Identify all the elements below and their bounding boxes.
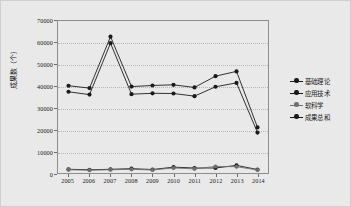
line-chart-svg (58, 21, 268, 173)
legend-label: 成果总和 (305, 113, 330, 122)
data-point (129, 167, 133, 171)
data-point (234, 69, 238, 73)
x-axis-tick-label: 2005 (61, 177, 74, 184)
plot-area (57, 20, 269, 174)
data-point (150, 83, 154, 87)
series-4 (66, 35, 259, 130)
data-point (192, 85, 196, 89)
data-point (66, 84, 70, 88)
data-point (255, 131, 259, 135)
data-point (192, 94, 196, 98)
legend-item-2[interactable]: 应用技术 (290, 87, 350, 99)
data-point (192, 167, 196, 171)
data-point (213, 85, 217, 89)
data-point (234, 81, 238, 85)
data-point (213, 74, 217, 78)
data-point (108, 168, 112, 172)
series-1 (66, 41, 259, 135)
data-point (87, 86, 91, 90)
data-point (66, 168, 70, 172)
x-axis-tick-label: 2014 (252, 177, 265, 184)
legend-item-1[interactable]: 基础理论 (290, 75, 350, 87)
legend-item-3[interactable]: 软科学 (290, 99, 350, 111)
series-2 (66, 163, 259, 171)
series-layer (58, 21, 268, 173)
x-axis-tick-labels: 2005200620072008200920102011201220132014 (57, 177, 269, 191)
data-point (87, 93, 91, 97)
series-line (69, 37, 258, 128)
x-axis-tick-label: 2011 (189, 177, 202, 184)
data-point (171, 166, 175, 170)
x-axis-tick-label: 2010 (167, 177, 180, 184)
x-axis-tick-label: 2009 (146, 177, 159, 184)
data-point (108, 35, 112, 39)
legend-marker-icon (290, 113, 303, 121)
data-point (171, 91, 175, 95)
data-point (129, 85, 133, 89)
data-point (150, 168, 154, 172)
data-point (129, 92, 133, 96)
data-point (150, 91, 154, 95)
x-axis-tick-label: 2013 (231, 177, 244, 184)
legend-label: 应用技术 (305, 89, 330, 98)
x-axis-tick-label: 2007 (104, 177, 117, 184)
x-axis-tick-label: 2006 (82, 177, 95, 184)
data-point (255, 168, 259, 172)
x-axis-tick-label: 2012 (210, 177, 223, 184)
data-point (66, 90, 70, 94)
chart-figure: 成果数（个） 010000200003000040000500006000070… (0, 0, 351, 207)
data-point (171, 83, 175, 87)
y-axis-tick-labels: 010000200003000040000500006000070000 (17, 20, 55, 174)
series-line (69, 43, 258, 132)
data-point (87, 168, 91, 172)
data-point (234, 165, 238, 169)
chart-legend: 基础理论应用技术软科学成果总和 (290, 75, 350, 123)
x-axis-tick-label: 2008 (125, 177, 138, 184)
legend-marker-icon (290, 77, 303, 85)
legend-item-4[interactable]: 成果总和 (290, 111, 350, 123)
legend-marker-icon (290, 89, 303, 97)
data-point (255, 125, 259, 129)
legend-marker-icon (290, 101, 303, 109)
data-point (108, 41, 112, 45)
data-point (213, 164, 217, 168)
legend-label: 软科学 (305, 101, 324, 110)
legend-label: 基础理论 (305, 77, 330, 86)
